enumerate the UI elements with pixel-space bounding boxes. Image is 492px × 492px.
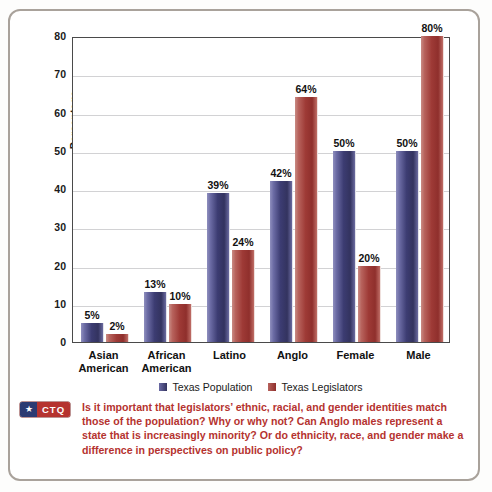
- y-tick-label: 0: [30, 336, 66, 348]
- bar-value-label: 64%: [286, 83, 326, 95]
- ctq-badge-label: CTQ: [37, 402, 70, 417]
- gridline: [73, 115, 449, 116]
- x-axis-label-male: Male: [376, 349, 462, 362]
- gridline: [73, 306, 449, 307]
- bar-chart: Percentage 80706050403020100 5%2%13%10%3…: [8, 9, 480, 399]
- ctq-caption: ★ CTQ Is it important that legislators’ …: [20, 400, 472, 457]
- y-tick-label: 50: [30, 145, 66, 157]
- bar-value-label: 50%: [324, 137, 364, 149]
- bar-value-label: 39%: [198, 179, 238, 191]
- y-tick-label: 30: [30, 221, 66, 233]
- chart-legend: Texas Population Texas Legislators: [72, 381, 450, 393]
- gridline: [73, 76, 449, 77]
- bar-legislators: [169, 304, 192, 342]
- figure-container: Percentage 80706050403020100 5%2%13%10%3…: [0, 0, 492, 492]
- legend-swatch-legislators-icon: [268, 383, 276, 391]
- bar-value-label: 10%: [160, 290, 200, 302]
- plot-area: 5%2%13%10%39%24%42%64%50%20%50%80%: [72, 37, 450, 343]
- gridline: [73, 229, 449, 230]
- y-tick-label: 20: [30, 260, 66, 272]
- bar-population: [270, 181, 293, 342]
- ctq-question-text: Is it important that legislators’ ethnic…: [82, 400, 464, 457]
- y-tick-label: 80: [30, 30, 66, 42]
- star-icon: ★: [20, 402, 37, 417]
- bar-legislators: [232, 250, 255, 342]
- y-tick-label: 10: [30, 298, 66, 310]
- bar-population: [333, 151, 356, 342]
- ctq-badge: ★ CTQ: [20, 402, 70, 417]
- bar-legislators: [358, 266, 381, 343]
- legend-label-population: Texas Population: [172, 381, 252, 393]
- legend-swatch-population-icon: [159, 383, 167, 391]
- y-tick-label: 70: [30, 68, 66, 80]
- bar-value-label: 80%: [412, 22, 452, 34]
- bar-legislators: [421, 36, 444, 342]
- bar-population: [396, 151, 419, 342]
- bar-value-label: 20%: [349, 252, 389, 264]
- legend-item-texas-population: Texas Population: [159, 381, 252, 393]
- legend-label-legislators: Texas Legislators: [281, 381, 362, 393]
- bar-value-label: 13%: [135, 278, 175, 290]
- bar-value-label: 5%: [72, 309, 112, 321]
- legend-item-texas-legislators: Texas Legislators: [268, 381, 362, 393]
- bar-legislators: [295, 97, 318, 342]
- y-tick-label: 60: [30, 107, 66, 119]
- gridline: [73, 153, 449, 154]
- bar-value-label: 24%: [223, 236, 263, 248]
- bar-legislators: [106, 334, 129, 342]
- gridline: [73, 268, 449, 269]
- gridline: [73, 191, 449, 192]
- y-tick-label: 40: [30, 183, 66, 195]
- bar-population: [207, 193, 230, 342]
- bar-value-label: 2%: [97, 320, 137, 332]
